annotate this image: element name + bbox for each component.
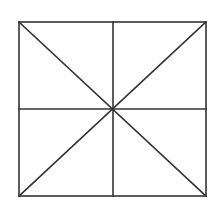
diagram-canvas (0, 0, 219, 210)
